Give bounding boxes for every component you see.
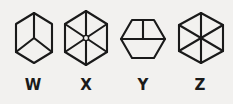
- interior-spoke-upper-left: [179, 25, 201, 38]
- figure-cell-x: X: [57, 0, 115, 104]
- interior-spoke-lower-left: [65, 38, 86, 52]
- figure-label-x: X: [57, 78, 115, 93]
- interior-spoke-upper-left: [65, 24, 86, 38]
- figure-label-y: Y: [114, 78, 172, 93]
- interior-spoke-upper-right: [86, 24, 107, 38]
- interior-spoke-lower-left: [16, 38, 34, 52]
- interior-spoke-lower-right: [86, 38, 107, 52]
- interior-spoke-lower-right: [201, 38, 223, 51]
- interior-spoke-lower-right: [34, 38, 52, 52]
- hexagon-figure-x: [61, 9, 111, 67]
- interior-spoke-lower-left: [179, 38, 201, 51]
- figure-label-w: W: [6, 78, 60, 93]
- figure-cell-z: Z: [171, 0, 229, 104]
- center-node-icon: [83, 35, 88, 40]
- figure-cell-w: W: [6, 0, 60, 104]
- figure-cell-y: Y: [114, 0, 172, 104]
- hexagon-figure-y: [118, 17, 168, 61]
- hexagon-figure-z: [175, 11, 227, 65]
- figure-sheet: W X Y: [0, 0, 233, 104]
- figure-label-z: Z: [171, 78, 229, 93]
- interior-spoke-upper-right: [201, 25, 223, 38]
- hexagon-figure-w: [13, 11, 55, 65]
